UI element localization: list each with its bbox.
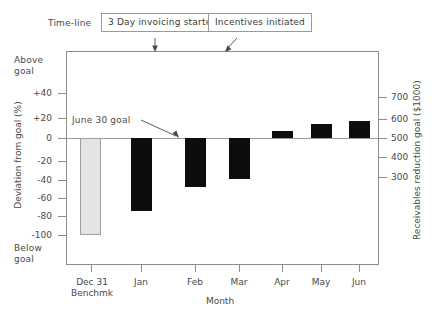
below-goal-line1: Below (14, 243, 42, 254)
timeline-event-3-day-invoicing-started[interactable]: 3 Day invoicing started (101, 13, 224, 32)
y2-tick-label: 400 (391, 152, 408, 162)
bar-mar[interactable] (229, 138, 250, 179)
bar-dec-31-benchmk[interactable] (80, 138, 101, 235)
y2-tick-label: 600 (391, 114, 408, 124)
y2-tick-label: 300 (391, 172, 408, 182)
zero-goal-line (66, 138, 379, 139)
y-tick-mark (58, 138, 66, 139)
x-tick-mark (195, 265, 196, 272)
above-goal-label: Above goal (14, 55, 43, 77)
x-tick-label-may: May (301, 277, 341, 287)
x-tick-label-mar: Mar (219, 277, 259, 287)
y-tick-mark (58, 118, 66, 119)
x-tick-mark (239, 265, 240, 272)
y-tick-mark (58, 93, 66, 94)
timeline-label: Time-line (48, 18, 91, 29)
x-tick-mark (141, 265, 142, 272)
bar-feb[interactable] (185, 138, 206, 187)
bar-jan[interactable] (131, 138, 152, 211)
y-tick-label: -100 (6, 230, 52, 240)
x-tick-mark (321, 265, 322, 272)
y-tick-mark (58, 161, 66, 162)
arrow-line-incentives (227, 38, 237, 49)
y2-tick-mark (379, 177, 387, 178)
below-goal-label: Below goal (14, 243, 42, 265)
y-tick-mark (58, 198, 66, 199)
bar-jun[interactable] (349, 121, 370, 138)
y2-tick-mark (379, 157, 387, 158)
y2-tick-mark (379, 119, 387, 120)
bar-apr[interactable] (272, 131, 293, 138)
x-tick-label-feb: Feb (175, 277, 215, 287)
timeline-event-incentives-initiated[interactable]: Incentives initiated (208, 13, 312, 32)
above-goal-line2: goal (14, 66, 43, 77)
y-tick-mark (58, 180, 66, 181)
plot-area (66, 51, 379, 265)
y-axis-title: Deviation from goal (%) (13, 85, 23, 225)
june-30-goal-callout: June 30 goal (72, 115, 130, 126)
x-tick-label-line1: Dec 31 (66, 277, 118, 288)
y2-axis-title: Receivables reduction goal ($1000) (412, 90, 422, 240)
x-tick-label-jan: Jan (121, 277, 161, 287)
x-tick-label-jun: Jun (339, 277, 379, 287)
x-tick-label-apr: Apr (262, 277, 302, 287)
y2-tick-label: 700 (391, 92, 408, 102)
x-tick-mark (91, 265, 92, 272)
y-tick-mark (58, 235, 66, 236)
above-goal-line1: Above (14, 55, 43, 66)
x-axis-title: Month (0, 296, 440, 306)
bar-may[interactable] (311, 124, 332, 138)
deviation-from-goal-chart: Time-line 3 Day invoicing started Incent… (0, 0, 440, 323)
y2-tick-label: 500 (391, 133, 408, 143)
y-tick-mark (58, 216, 66, 217)
x-tick-mark (282, 265, 283, 272)
x-tick-mark (359, 265, 360, 272)
y2-tick-mark (379, 138, 387, 139)
below-goal-line2: goal (14, 254, 42, 265)
y2-tick-mark (379, 97, 387, 98)
